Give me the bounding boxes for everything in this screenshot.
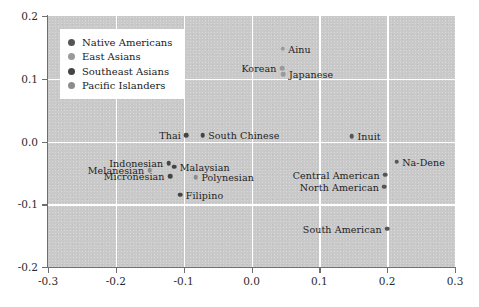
data-point-label: Na-Dene (402, 156, 445, 167)
data-point-label: Central American (293, 169, 380, 180)
data-point (385, 226, 390, 231)
x-tick-label: -0.1 (174, 275, 194, 287)
y-tick-mark (42, 79, 47, 80)
gridline-horizontal (48, 142, 455, 144)
data-point-label: Ainu (288, 43, 311, 54)
gridline-horizontal (48, 204, 455, 206)
y-axis-spine (47, 15, 48, 268)
x-tick-mark (184, 268, 185, 273)
data-point (281, 72, 286, 77)
y-tick-mark (42, 267, 47, 268)
data-point-label: South American (303, 223, 382, 234)
data-point-label: Melanesian (88, 165, 145, 176)
legend-item-label: Pacific Islanders (82, 80, 165, 91)
data-point (147, 168, 152, 173)
legend-marker-icon (68, 82, 75, 89)
data-point (168, 174, 173, 179)
legend-marker-icon (68, 39, 75, 46)
x-tick-label: 0.0 (243, 275, 260, 287)
data-point-label: Thai (159, 130, 181, 141)
legend-item: East Asians (68, 50, 172, 65)
data-point-label: Malaysian (180, 161, 230, 172)
legend-item-label: East Asians (82, 51, 141, 62)
data-point-label: Polynesian (201, 172, 254, 183)
data-point (184, 133, 189, 138)
data-point (194, 175, 199, 180)
data-point (166, 161, 171, 166)
x-tick-mark (252, 268, 253, 273)
y-tick-mark (42, 16, 47, 17)
x-tick-label: 0.1 (311, 275, 328, 287)
x-tick-label: -0.3 (38, 275, 58, 287)
legend-marker-icon (68, 53, 75, 60)
legend-item: Southeast Asians (68, 64, 172, 79)
data-point-label: North American (300, 181, 379, 192)
data-point (200, 133, 205, 138)
data-point (280, 66, 285, 71)
x-tick-mark (455, 268, 456, 273)
legend-item: Pacific Islanders (68, 79, 172, 94)
data-point (382, 184, 387, 189)
x-tick-label: 0.2 (379, 275, 396, 287)
x-tick-mark (319, 268, 320, 273)
data-point (178, 193, 183, 198)
y-tick-label: 0.0 (21, 136, 38, 148)
y-tick-mark (42, 204, 47, 205)
scatter-plot-figure: InuitNa-DeneCentral AmericanNorth Americ… (0, 0, 479, 307)
x-tick-mark (48, 268, 49, 273)
data-point (280, 46, 285, 51)
legend-marker-icon (68, 68, 75, 75)
y-tick-label: 0.2 (21, 10, 38, 22)
data-point (394, 159, 399, 164)
data-point-label: South Chinese (208, 130, 279, 141)
legend-item: Native Americans (68, 35, 172, 50)
x-tick-label: 0.3 (447, 275, 464, 287)
y-tick-mark (42, 142, 47, 143)
data-point-label: Filipino (186, 189, 223, 200)
y-tick-label: 0.1 (21, 73, 38, 85)
y-tick-label: -0.1 (18, 198, 38, 210)
data-point (383, 172, 388, 177)
legend-item-label: Native Americans (82, 37, 172, 48)
data-point-label: Korean (241, 63, 276, 74)
data-point-label: Japanese (289, 69, 333, 80)
legend: Native AmericansEast AsiansSoutheast Asi… (60, 29, 184, 99)
data-point (350, 134, 355, 139)
x-tick-mark (387, 268, 388, 273)
x-tick-label: -0.2 (106, 275, 126, 287)
x-tick-mark (116, 268, 117, 273)
y-tick-label: -0.2 (18, 261, 38, 273)
data-point-label: Inuit (357, 131, 380, 142)
data-point (172, 164, 177, 169)
legend-item-label: Southeast Asians (82, 66, 169, 77)
